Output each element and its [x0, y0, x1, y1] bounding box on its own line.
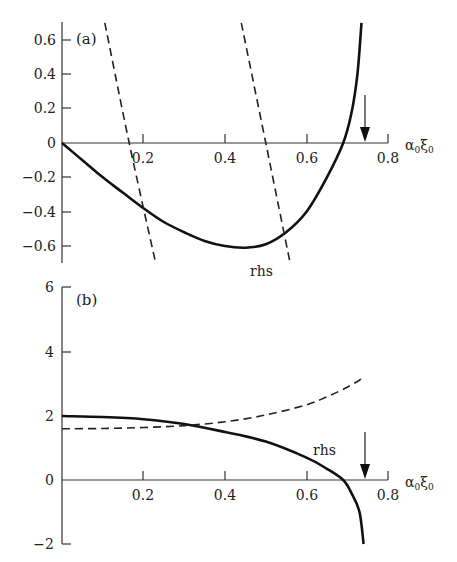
panel-b-x-ticks: [143, 471, 388, 480]
figure: 0.6 0.4 0.2 0 −0.2 −0.4 −0.6 0.2 0.4 0.6…: [0, 0, 457, 562]
panel-b-xtick-label: 0.4: [214, 487, 236, 503]
panel-b-xtick-label: 0.8: [377, 487, 399, 503]
panel-b-label: (b): [76, 291, 97, 309]
panel-a-ytick-label: 0.6: [34, 32, 56, 48]
panel-a-xtick-label: 0.8: [377, 150, 399, 166]
panel-b-ytick-label: 6: [45, 279, 54, 295]
panel-a-xtick-label: 0.6: [296, 150, 318, 166]
panel-a-xtick-label: 0.2: [132, 150, 154, 166]
panel-a: 0.6 0.4 0.2 0 −0.2 −0.4 −0.6 0.2 0.4 0.6…: [22, 22, 434, 279]
panel-b-rhs-annotation: rhs: [313, 442, 336, 458]
panel-a-ytick-label: 0.2: [34, 100, 56, 116]
panel-a-rhs-curve: [62, 23, 362, 248]
panel-b-xtick-label: 0.6: [296, 487, 318, 503]
panel-a-arrow-icon: [360, 95, 370, 142]
panel-a-ytick-label: 0.4: [34, 66, 56, 82]
panel-b-ytick-label: 4: [45, 344, 54, 360]
panel-a-ytick-label: 0: [47, 135, 56, 151]
panel-a-ytick-label: −0.2: [22, 169, 56, 185]
panel-b: 6 4 2 0 −2 0.2 0.4 0.6 0.8 α0ξ0 (b) rhs: [33, 279, 434, 552]
panel-b-dashed-curve: [62, 378, 364, 429]
panel-a-xtick-label: 0.4: [214, 150, 236, 166]
panel-b-x-axis-label: α0ξ0: [405, 474, 434, 492]
panel-b-xtick-label: 0.2: [132, 487, 154, 503]
panel-a-label: (a): [76, 30, 97, 48]
panel-b-ytick-label: −2: [33, 536, 54, 552]
panel-a-rhs-annotation: rhs: [250, 263, 273, 279]
panel-b-ytick-label: 0: [45, 472, 54, 488]
panel-b-arrow-icon: [360, 432, 370, 479]
panel-a-x-axis-label: α0ξ0: [405, 137, 434, 155]
panel-b-ytick-label: 2: [45, 408, 54, 424]
panel-a-ytick-label: −0.6: [22, 238, 56, 254]
panel-a-ytick-label: −0.4: [22, 204, 56, 220]
